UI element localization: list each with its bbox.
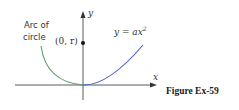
x-axis-label: x xyxy=(153,73,158,82)
y-axis-label: y xyxy=(88,9,93,18)
circle-arc xyxy=(41,46,83,85)
point-0-r xyxy=(81,41,85,45)
x-axis-arrow-icon xyxy=(150,83,157,88)
figure-caption: Figure Ex-59 xyxy=(166,87,219,97)
arc-label-line2: circle xyxy=(23,33,46,42)
point-label: (0, r) xyxy=(55,37,78,46)
parabola-label-exponent: 2 xyxy=(143,25,147,32)
y-axis-arrow-icon xyxy=(81,11,86,18)
arc-label-line1: Arc of xyxy=(24,21,49,30)
parabola-label: y = ax2 xyxy=(114,26,147,37)
figure-canvas: Arc of circle (0, r) y = ax2 y x Figure … xyxy=(0,0,239,110)
parabola-curve xyxy=(83,45,143,85)
parabola-label-text: y = ax xyxy=(114,27,143,37)
